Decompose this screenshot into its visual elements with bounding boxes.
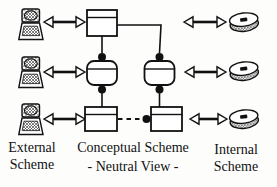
arrow-external-conceptual-3 [44,114,85,124]
conceptual-scheme-label: Conceptual Scheme [64,139,202,156]
neutral-view-label: - Neutral View - [64,158,202,175]
arrow-conceptual-internal-3 [190,114,227,124]
terminal-icon-1 [19,9,43,40]
external-scheme-label: External Scheme [2,139,62,173]
terminal-icon-3 [19,104,43,135]
internal-scheme-label-line1: Internal [205,141,267,158]
arrow-external-conceptual-1 [44,17,85,27]
external-scheme-label-line2: Scheme [2,156,62,173]
junction-dot [98,86,106,94]
junction-dot [98,53,106,61]
disk-icon-1 [229,11,259,33]
three-schema-architecture-diagram: External Scheme Conceptual Scheme - Neut… [0,0,277,187]
junction-dot [143,115,151,123]
disk-icon-3 [229,108,259,130]
arrow-conceptual-internal-2 [185,67,226,77]
arrow-external-conceptual-2 [44,67,85,77]
arrow-conceptual-internal-1 [184,17,226,27]
schema-node-mid-right [145,61,175,85]
terminal-icon-2 [19,57,43,88]
connector-top-to-midright [117,25,161,53]
conceptual-scheme-caption: Conceptual Scheme - Neutral View - [64,139,202,175]
junction-dot [156,86,164,94]
schema-node-bottom-right [151,107,182,131]
internal-scheme-label: Internal Scheme [205,141,267,175]
internal-scheme-label-line2: Scheme [205,158,267,175]
schema-node-bottom-left [85,107,117,131]
schema-node-mid-left [87,61,117,85]
schema-node-top [87,10,117,36]
external-scheme-label-line1: External [2,139,62,156]
disk-icon-2 [229,60,259,82]
junction-dot [156,53,164,61]
